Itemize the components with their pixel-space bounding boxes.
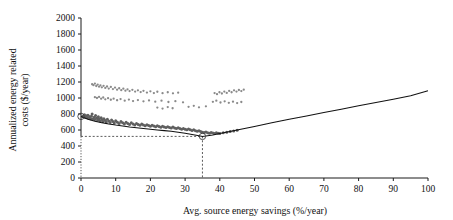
- x-tick-label: 0: [79, 184, 84, 194]
- data-point: [116, 99, 118, 101]
- data-point: [122, 88, 124, 90]
- x-tick-label: 90: [389, 184, 399, 194]
- data-point: [160, 100, 162, 102]
- data-point: [156, 91, 158, 93]
- data-point: [161, 92, 163, 94]
- data-point: [218, 91, 220, 93]
- data-point: [177, 92, 179, 94]
- data-point: [94, 114, 97, 117]
- data-point: [215, 100, 217, 102]
- data-point: [124, 89, 126, 91]
- scatter-chart: 0200400600800100012001400160018002000 01…: [0, 0, 453, 220]
- x-tick-label: 100: [421, 184, 436, 194]
- axis-lines: [81, 18, 428, 178]
- data-point: [243, 89, 245, 91]
- data-point: [107, 97, 109, 99]
- data-point: [132, 100, 134, 102]
- data-point: [212, 101, 214, 103]
- y-tick-label: 1000: [56, 93, 75, 103]
- y-tick-label: 800: [61, 109, 76, 119]
- data-point: [134, 90, 136, 92]
- data-point: [198, 106, 200, 108]
- x-tick-label: 80: [354, 184, 364, 194]
- data-point: [128, 90, 130, 92]
- data-point: [116, 89, 118, 91]
- data-point: [118, 87, 120, 89]
- trend-line: [81, 91, 428, 137]
- data-point: [187, 106, 189, 108]
- x-tick-label: 40: [215, 184, 225, 194]
- data-point: [140, 91, 142, 93]
- axis-labels: Avg. source energy savings (%/year) Annu…: [7, 48, 327, 217]
- x-tick-label: 50: [250, 184, 260, 194]
- data-point: [112, 88, 114, 90]
- data-point: [148, 99, 150, 101]
- y-axis-title-line1: Annualized energy related: [7, 48, 18, 151]
- data-point: [240, 101, 242, 103]
- data-point: [97, 83, 99, 85]
- data-point: [228, 102, 230, 104]
- data-point: [156, 106, 158, 108]
- data-point: [110, 86, 112, 88]
- data-point: [193, 105, 195, 107]
- y-tick-label: 0: [70, 173, 75, 183]
- data-point: [120, 89, 122, 91]
- y-axis-ticks: 0200400600800100012001400160018002000: [56, 13, 81, 183]
- data-point: [167, 101, 169, 103]
- data-point: [174, 100, 176, 102]
- frontier-curve: [81, 91, 428, 137]
- x-tick-label: 30: [180, 184, 190, 194]
- data-point: [216, 93, 218, 95]
- data-point: [205, 105, 207, 107]
- data-point: [226, 92, 228, 94]
- data-point: [102, 85, 104, 87]
- data-point: [219, 101, 221, 103]
- data-point: [221, 92, 223, 94]
- data-point: [153, 92, 155, 94]
- data-point: [142, 100, 144, 102]
- data-point: [224, 100, 226, 102]
- y-axis-title-line2: costs ($/year): [19, 73, 31, 126]
- y-tick-label: 1200: [56, 77, 75, 87]
- data-point: [126, 88, 128, 90]
- data-point: [99, 84, 101, 86]
- y-tick-label: 200: [61, 157, 76, 167]
- x-axis-title: Avg. source energy savings (%/year): [183, 205, 327, 217]
- data-point: [223, 90, 225, 92]
- x-tick-label: 20: [146, 184, 156, 194]
- chart-canvas: 0200400600800100012001400160018002000 01…: [0, 0, 453, 220]
- data-point: [102, 96, 104, 98]
- data-point: [119, 98, 121, 100]
- data-point: [161, 107, 163, 109]
- y-tick-label: 2000: [56, 13, 75, 23]
- data-point: [112, 97, 114, 99]
- reference-lines: [81, 136, 202, 178]
- data-point: [128, 98, 130, 100]
- data-point: [235, 90, 237, 92]
- data-point: [137, 89, 139, 91]
- data-point: [213, 92, 215, 94]
- data-point: [106, 85, 108, 87]
- data-point: [228, 90, 230, 92]
- data-point: [124, 100, 126, 102]
- data-points: [81, 82, 245, 135]
- y-tick-label: 1800: [56, 29, 75, 39]
- data-point: [154, 101, 156, 103]
- data-point: [110, 99, 112, 101]
- data-point: [149, 90, 151, 92]
- data-point: [91, 113, 94, 116]
- x-tick-label: 70: [319, 184, 329, 194]
- data-point: [182, 101, 184, 103]
- data-point: [167, 91, 169, 93]
- x-tick-label: 60: [284, 184, 294, 194]
- data-point: [108, 87, 110, 89]
- data-point: [96, 97, 98, 99]
- data-point: [100, 97, 102, 99]
- x-tick-label: 10: [111, 184, 121, 194]
- data-point: [167, 106, 169, 108]
- data-point: [233, 89, 235, 91]
- data-point: [98, 96, 100, 98]
- data-point: [232, 101, 234, 103]
- y-tick-label: 1600: [56, 45, 75, 55]
- data-point: [94, 96, 96, 98]
